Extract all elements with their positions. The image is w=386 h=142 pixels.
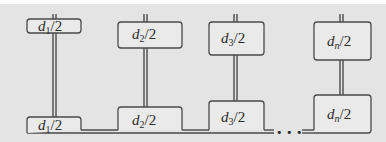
ellipsis: • • • bbox=[276, 126, 302, 139]
bottom-label-3: d3/2 bbox=[221, 109, 245, 127]
top-label-1: d1/2 bbox=[38, 18, 62, 36]
top-label-n: dn/2 bbox=[327, 33, 351, 51]
top-label-3: d3/2 bbox=[221, 30, 245, 48]
diagram-svg: d1/2 d2/2 d3/2 dn/2 d1/2 d2/2 d3/2 dn/2 … bbox=[0, 0, 386, 142]
bottom-label-n: dn/2 bbox=[327, 106, 351, 124]
bottom-boxes bbox=[27, 95, 371, 133]
vertical-connectors bbox=[53, 33, 343, 117]
top-stubs bbox=[53, 14, 343, 22]
labels: d1/2 d2/2 d3/2 dn/2 d1/2 d2/2 d3/2 dn/2 … bbox=[38, 18, 351, 139]
top-label-2: d2/2 bbox=[132, 26, 156, 44]
bottom-label-2: d2/2 bbox=[132, 112, 156, 130]
bottom-label-1: d1/2 bbox=[38, 117, 62, 135]
top-boxes bbox=[27, 19, 371, 60]
